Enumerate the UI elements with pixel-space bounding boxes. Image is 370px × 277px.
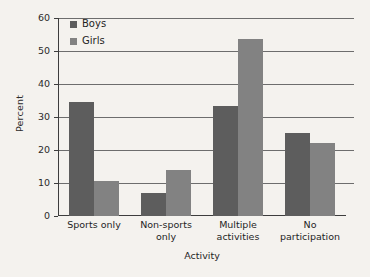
x-axis-title: Activity xyxy=(58,250,346,261)
bar-girls-2 xyxy=(238,39,263,216)
bar-boys-3 xyxy=(285,133,310,216)
x-axis-tick-label-line: only xyxy=(130,231,202,243)
legend-item-boys: Boys xyxy=(70,19,106,29)
bar-group xyxy=(274,18,346,216)
x-axis-tick-label: Sports only xyxy=(58,219,130,231)
bar-girls-0 xyxy=(94,181,119,216)
x-axis-tick-label: Noparticipation xyxy=(274,219,346,242)
x-axis-tick-label: Multipleactivities xyxy=(202,219,274,242)
bar-group xyxy=(130,18,202,216)
bar-girls-3 xyxy=(310,143,335,216)
x-axis-tick-labels: Sports onlyNon-sportsonlyMultipleactivit… xyxy=(58,219,346,253)
bar-chart: Percent 0102030405060 BoysGirls Sports o… xyxy=(0,0,370,277)
plot-area xyxy=(58,18,346,216)
bar-boys-0 xyxy=(69,102,94,216)
y-axis-tick-label: 40 xyxy=(28,79,50,89)
y-axis-tick-label: 20 xyxy=(28,145,50,155)
bar-group xyxy=(202,18,274,216)
bar-girls-1 xyxy=(166,170,191,216)
x-axis-tick-label-line: Sports only xyxy=(58,219,130,231)
x-axis-tick-label-line: Multiple xyxy=(202,219,274,231)
y-axis-tick-label: 0 xyxy=(28,211,50,221)
y-axis-tick-label: 50 xyxy=(28,46,50,56)
x-axis-tick-label-line: No xyxy=(274,219,346,231)
legend-label: Boys xyxy=(82,19,106,29)
y-axis-tick-labels: 0102030405060 xyxy=(26,0,50,277)
y-axis-tick-label: 30 xyxy=(28,112,50,122)
bar-boys-2 xyxy=(213,106,238,216)
y-axis-tick-label: 10 xyxy=(28,178,50,188)
legend: BoysGirls xyxy=(70,19,106,46)
y-axis-tick-label: 60 xyxy=(28,13,50,23)
x-axis-tick-label-line: Non-sports xyxy=(130,219,202,231)
legend-swatch-boys-icon xyxy=(70,21,77,28)
bar-boys-1 xyxy=(141,193,166,216)
x-axis-tick-label-line: activities xyxy=(202,231,274,243)
legend-swatch-girls-icon xyxy=(70,38,77,45)
x-axis-tick-label-line: participation xyxy=(274,231,346,243)
legend-label: Girls xyxy=(82,36,105,46)
y-axis-tick xyxy=(54,216,58,217)
legend-item-girls: Girls xyxy=(70,36,106,46)
x-axis-tick-label: Non-sportsonly xyxy=(130,219,202,242)
bar-group xyxy=(58,18,130,216)
y-axis-title: Percent xyxy=(14,79,25,149)
bars-layer xyxy=(58,18,346,216)
